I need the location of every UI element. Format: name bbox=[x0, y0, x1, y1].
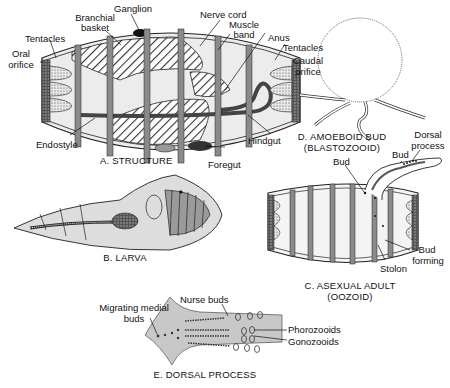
label-hindgut: Hindgut bbox=[248, 136, 281, 146]
caption-d-amoeboid-bud-2: (BLASTOZOOID) bbox=[292, 142, 392, 153]
caption-c-asexual-adult-1: C. ASEXUAL ADULT bbox=[290, 280, 410, 291]
label-bud-forming-1: Bud bbox=[410, 245, 444, 255]
label-migrating-medial-buds-2: buds bbox=[94, 314, 174, 324]
caption-c-asexual-adult-2: (OOZOID) bbox=[290, 291, 410, 302]
label-oral-orifice-1: Oral bbox=[6, 49, 36, 59]
label-dorsal-process-2: process bbox=[408, 141, 448, 151]
label-dorsal-process-1: Dorsal bbox=[408, 130, 448, 140]
label-gonozooids: Gonozooids bbox=[288, 337, 339, 347]
label-oral-orifice-2: orifice bbox=[3, 60, 39, 70]
label-nurse-buds: Nurse buds bbox=[180, 295, 229, 305]
label-stolon: Stolon bbox=[380, 264, 407, 274]
label-branchial-basket-2: basket bbox=[70, 23, 120, 33]
label-phorozooids: Phorozooids bbox=[288, 325, 341, 335]
caption-d-amoeboid-bud-1: D. AMOEBOID BUD bbox=[292, 131, 392, 142]
caption-e-dorsal-process: E. DORSAL PROCESS bbox=[150, 369, 260, 380]
label-endostyle: Endostyle bbox=[36, 140, 78, 150]
label-caudal-orifice-2: orifice bbox=[288, 67, 328, 77]
label-bud-right: Bud bbox=[392, 150, 409, 160]
caption-b-larva: B. LARVA bbox=[100, 252, 150, 263]
label-bud-left: Bud bbox=[333, 157, 350, 167]
doliolid-diagram bbox=[0, 0, 450, 388]
label-caudal-orifice-1: Caudal bbox=[288, 56, 328, 66]
panel-b-larva bbox=[14, 175, 222, 250]
label-migrating-medial-buds-1: Migrating medial bbox=[94, 303, 174, 313]
label-foregut: Foregut bbox=[208, 160, 241, 170]
panel-d-amoeboid-bud bbox=[300, 18, 425, 140]
label-tentacles-left: Tentacles bbox=[25, 34, 65, 44]
caption-a-structure: A. STRUCTURE bbox=[100, 155, 170, 166]
label-tentacles-right: Tentacles bbox=[283, 43, 323, 53]
label-muscle-band-2: band bbox=[227, 30, 261, 40]
label-bud-forming-2: forming bbox=[408, 256, 448, 266]
